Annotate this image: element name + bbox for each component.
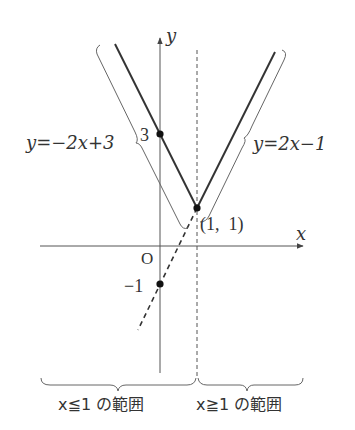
line-2x-minus1 — [197, 52, 275, 208]
range-label-left: x≦1 の範囲 — [58, 395, 144, 414]
label-neg1: −1 — [124, 276, 143, 296]
point-y-intercept-3 — [156, 130, 163, 137]
label-right-function: y=2x−1 — [252, 133, 326, 154]
point-y-intercept-neg1 — [156, 280, 163, 287]
origin-label: O — [141, 249, 153, 268]
line-neg2x-plus3 — [115, 44, 197, 208]
range-label-right: x≧1 の範囲 — [196, 395, 282, 414]
brace-range-right — [198, 378, 303, 391]
label-3: 3 — [140, 125, 149, 145]
point-vertex-1-1 — [193, 204, 200, 211]
graph-canvas: x y O 3 −1 (1, 1) y=−2x+3 y=2x−1 x≦1 の範囲… — [0, 0, 355, 430]
line-2x-minus1-dashed-extension — [138, 208, 197, 330]
x-axis-label: x — [296, 223, 306, 244]
brace-range-left — [41, 378, 196, 391]
y-axis-label: y — [165, 25, 177, 46]
label-left-function: y=−2x+3 — [25, 132, 114, 153]
label-vertex: (1, 1) — [200, 214, 244, 235]
